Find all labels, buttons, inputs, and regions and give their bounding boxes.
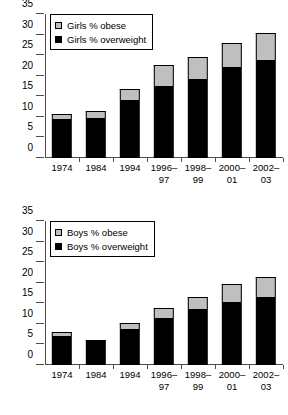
y-tick-35 bbox=[36, 220, 44, 221]
x-axis-label: 2000–01 bbox=[215, 369, 249, 409]
stacked-bar bbox=[120, 89, 140, 158]
y-tick-label-30: 30 bbox=[22, 18, 33, 29]
x-axis-label-line1: 1994 bbox=[119, 369, 140, 380]
y-tick-label-0: 0 bbox=[27, 349, 33, 360]
stacked-bar bbox=[222, 43, 242, 158]
x-axis-label-line2: 99 bbox=[181, 174, 215, 186]
legend-item: Boys % overweight bbox=[55, 239, 148, 253]
y-tick-label-25: 25 bbox=[22, 39, 33, 50]
bar-segment-overweight bbox=[86, 118, 106, 158]
bar-segment-overweight bbox=[256, 297, 276, 365]
x-axis-label-line1: 1974 bbox=[51, 369, 72, 380]
y-tick-label-30: 30 bbox=[22, 225, 33, 236]
bar-slot bbox=[215, 221, 249, 365]
bar-segment-overweight bbox=[52, 336, 72, 365]
y-tick-label-5: 5 bbox=[27, 328, 33, 339]
bar-segment-overweight bbox=[188, 79, 208, 158]
stacked-bar bbox=[188, 57, 208, 158]
bar-slot bbox=[249, 14, 283, 158]
x-axis-labels-girls: 1974198419941996–971998–992000–012002–03 bbox=[45, 162, 283, 202]
legend-swatch-obese bbox=[55, 229, 62, 236]
y-tick-15 bbox=[36, 302, 44, 303]
x-axis-label-line1: 1984 bbox=[85, 369, 106, 380]
x-axis-label: 1974 bbox=[45, 162, 79, 202]
stacked-bar bbox=[256, 33, 276, 158]
legend-label: Girls % obese bbox=[67, 20, 126, 31]
stacked-bar bbox=[120, 323, 140, 365]
stacked-bar bbox=[86, 340, 106, 366]
x-axis-label: 1998–99 bbox=[181, 162, 215, 202]
legend-swatch-obese bbox=[55, 22, 62, 29]
legend-swatch-overweight bbox=[55, 243, 62, 250]
bar-segment-overweight bbox=[52, 119, 72, 158]
bar-segment-obese bbox=[188, 297, 208, 309]
x-axis-label: 1998–99 bbox=[181, 369, 215, 409]
x-axis-label: 2002–03 bbox=[249, 162, 283, 202]
bar-segment-overweight bbox=[120, 100, 140, 158]
y-tick-0 bbox=[36, 157, 44, 158]
bar-segment-obese bbox=[256, 277, 276, 297]
x-axis-label-line1: 2002– bbox=[253, 369, 279, 380]
y-tick-20 bbox=[36, 282, 44, 283]
bar-segment-overweight bbox=[120, 329, 140, 365]
x-axis-label-line1: 2002– bbox=[253, 162, 279, 173]
bar-segment-overweight bbox=[222, 67, 242, 158]
y-tick-25 bbox=[36, 261, 44, 262]
y-tick-25 bbox=[36, 54, 44, 55]
chart-boys: Percentage 05101520253035 19741984199419… bbox=[0, 207, 288, 415]
bar-segment-obese bbox=[86, 111, 106, 118]
bar-segment-obese bbox=[222, 43, 242, 67]
y-tick-label-15: 15 bbox=[22, 287, 33, 298]
bar-segment-overweight bbox=[86, 341, 106, 365]
x-axis-label-line2: 03 bbox=[249, 174, 283, 186]
y-tick-label-25: 25 bbox=[22, 246, 33, 257]
y-tick-label-10: 10 bbox=[22, 100, 33, 111]
bar-segment-obese bbox=[188, 57, 208, 80]
legend-girls: Girls % obeseGirls % overweight bbox=[50, 14, 153, 50]
y-tick-label-15: 15 bbox=[22, 80, 33, 91]
bar-segment-overweight bbox=[154, 318, 174, 365]
chart-girls: Percentage 05101520253035 19741984199419… bbox=[0, 0, 288, 207]
bar-segment-overweight bbox=[222, 302, 242, 365]
legend-item: Girls % obese bbox=[55, 18, 146, 32]
bar-slot bbox=[249, 221, 283, 365]
x-axis-label: 1984 bbox=[79, 162, 113, 202]
y-tick-15 bbox=[36, 95, 44, 96]
stacked-bar bbox=[154, 308, 174, 365]
x-axis-label-line1: 2000– bbox=[219, 162, 245, 173]
y-tick-0 bbox=[36, 364, 44, 365]
x-axis-label-line1: 1996– bbox=[151, 162, 177, 173]
stacked-bar bbox=[52, 114, 72, 158]
stacked-bar bbox=[256, 277, 276, 365]
legend-item: Girls % overweight bbox=[55, 32, 146, 46]
x-axis-label-line1: 1998– bbox=[185, 162, 211, 173]
y-tick-10 bbox=[36, 116, 44, 117]
legend-boys: Boys % obeseBoys % overweight bbox=[50, 221, 155, 257]
y-tick-label-35: 35 bbox=[22, 205, 33, 216]
x-axis-label-line2: 01 bbox=[215, 381, 249, 393]
x-tick bbox=[283, 365, 284, 369]
y-tick-label-20: 20 bbox=[22, 59, 33, 70]
y-tick-label-20: 20 bbox=[22, 266, 33, 277]
bar-segment-obese bbox=[154, 65, 174, 86]
x-axis-label-line2: 01 bbox=[215, 174, 249, 186]
x-axis-label: 1996–97 bbox=[147, 162, 181, 202]
y-tick-5 bbox=[36, 136, 44, 137]
bar-segment-obese bbox=[120, 89, 140, 100]
bar-segment-obese bbox=[222, 284, 242, 302]
y-tick-30 bbox=[36, 241, 44, 242]
x-tick bbox=[283, 158, 284, 162]
bar-segment-obese bbox=[256, 33, 276, 61]
x-axis-label-line1: 1974 bbox=[51, 162, 72, 173]
stacked-bar bbox=[86, 111, 106, 158]
y-tick-label-10: 10 bbox=[22, 307, 33, 318]
y-tick-label-35: 35 bbox=[22, 0, 33, 9]
legend-item: Boys % obese bbox=[55, 225, 148, 239]
y-tick-30 bbox=[36, 34, 44, 35]
legend-swatch-overweight bbox=[55, 36, 62, 43]
x-axis-label-line2: 97 bbox=[147, 381, 181, 393]
x-axis-label-line1: 1994 bbox=[119, 162, 140, 173]
bar-slot bbox=[181, 14, 215, 158]
bar-slot bbox=[181, 221, 215, 365]
x-axis-label: 1994 bbox=[113, 369, 147, 409]
